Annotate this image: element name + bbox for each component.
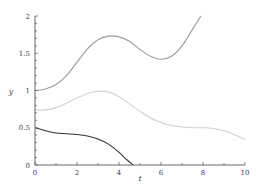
series-upper-line (35, 16, 201, 91)
x-tick-label: 8 (201, 169, 205, 177)
x-tick-label: 6 (159, 169, 164, 177)
x-tick-label: 10 (241, 169, 250, 177)
y-tick-label: 1.5 (19, 50, 30, 58)
chart-axes: 024681000.511.52 (19, 13, 250, 178)
chart-series (35, 16, 245, 165)
y-tick-label: 0.5 (19, 124, 30, 132)
y-tick-label: 1 (26, 87, 30, 95)
series-lower-line (35, 128, 133, 165)
x-tick-label: 2 (75, 169, 79, 177)
x-axis-label: t (138, 174, 142, 183)
y-tick-label: 0 (26, 162, 30, 170)
x-tick-label: 0 (33, 169, 37, 177)
y-tick-label: 2 (26, 13, 30, 21)
y-axis-label: y (8, 87, 14, 96)
series-middle-line (35, 91, 245, 140)
x-tick-label: 4 (117, 169, 122, 177)
line-chart: 024681000.511.52 t y (0, 0, 259, 188)
